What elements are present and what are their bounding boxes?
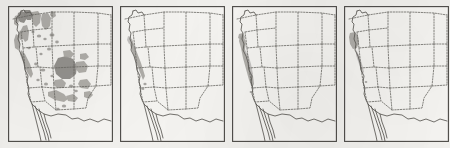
map-panel-4[interactable] (344, 6, 449, 142)
map-panel-3[interactable] (232, 6, 337, 142)
map-panel-2[interactable] (120, 6, 225, 142)
map-svg-panel-2 (120, 6, 225, 142)
map-svg-panel-1 (8, 6, 113, 142)
map-svg-panel-3 (232, 6, 337, 142)
map-svg-panel-4 (344, 6, 449, 142)
map-panel-1[interactable] (8, 6, 113, 142)
figure-container (0, 0, 450, 148)
